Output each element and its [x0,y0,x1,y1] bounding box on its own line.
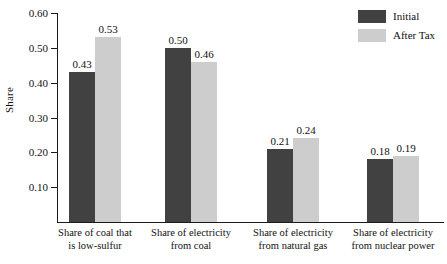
bar-initial [165,48,191,222]
legend-item-initial: Initial [358,8,444,25]
bar-group: 0.210.24 [267,13,319,222]
category-label-line2: from nuclear power [338,239,447,252]
bar-after-tax [191,62,217,222]
legend-swatch-after-tax [358,29,386,42]
chart-legend: Initial After Tax [358,8,444,46]
bar-value-label: 0.50 [160,35,196,46]
legend-swatch-initial [358,10,386,23]
bar-chart: Share 0.600.500.400.300.200.10 0.430.530… [0,0,447,264]
bar-value-label: 0.53 [90,24,126,35]
category-label-line1: Share of electricity [151,227,231,238]
category-label: Share of electricityfrom nuclear power [338,226,447,252]
y-tick-label: 0.40 [4,78,48,89]
legend-label-initial: Initial [393,10,419,23]
category-label-line2: from coal [136,239,246,252]
y-tick-label: 0.30 [4,113,48,124]
category-label-line1: Share of coal that [58,227,132,238]
legend-item-after-tax: After Tax [358,27,444,44]
bar-initial [367,159,393,222]
legend-label-after-tax: After Tax [393,29,435,42]
bar-initial [69,72,95,222]
category-label-line1: Share of electricity [253,227,333,238]
category-label: Share of coal thatis low-sulfur [40,226,150,252]
x-axis-line [57,222,444,223]
y-tick-label: 0.60 [4,8,48,19]
bar-value-label: 0.19 [388,143,424,154]
bar-group: 0.500.46 [165,13,217,222]
bar-after-tax [293,138,319,222]
category-label: Share of electricityfrom natural gas [238,226,348,252]
bar-after-tax [393,156,419,222]
bar-after-tax [95,37,121,222]
bar-group: 0.430.53 [69,13,121,222]
category-label-line2: is low-sulfur [40,239,150,252]
y-tick-label: 0.50 [4,43,48,54]
bar-value-label: 0.46 [186,49,222,60]
y-tick-label: 0.20 [4,147,48,158]
bar-value-label: 0.24 [288,125,324,136]
y-tick-label: 0.10 [4,182,48,193]
bar-initial [267,149,293,222]
category-label-line1: Share of electricity [353,227,433,238]
category-label-line2: from natural gas [238,239,348,252]
category-label: Share of electricityfrom coal [136,226,246,252]
